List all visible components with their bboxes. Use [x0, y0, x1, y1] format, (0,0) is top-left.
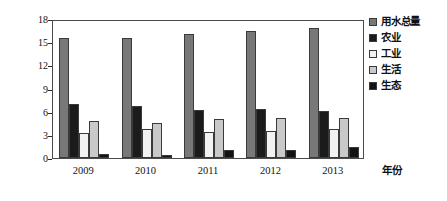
x-axis-tick-labels: 20092010201120122013 [52, 164, 364, 178]
bar-2009-series-4 [99, 154, 109, 158]
bar-2013-series-2 [329, 129, 339, 158]
legend-label: 农业 [381, 32, 401, 44]
bar-2010-series-4 [162, 155, 172, 158]
bar-2013-series-1 [319, 111, 329, 158]
bar-2012-series-3 [276, 118, 286, 158]
bar-2009-series-2 [79, 133, 89, 158]
bar-2010-series-3 [152, 123, 162, 158]
x-tick-label-2011: 2011 [198, 164, 219, 177]
bar-2009-series-1 [69, 104, 79, 158]
bar-group-2011 [178, 21, 240, 158]
y-tick-label: 18 [28, 15, 48, 25]
legend-item-1: 农业 [369, 31, 445, 46]
bar-group-2013 [303, 21, 365, 158]
x-tick-label-2013: 2013 [322, 164, 343, 177]
bar-2010-series-0 [122, 38, 132, 158]
y-tick-label: 9 [28, 85, 48, 95]
y-tick-label: 6 [28, 108, 48, 118]
x-tick-label-2012: 2012 [260, 164, 281, 177]
legend-item-2: 工业 [369, 47, 445, 62]
legend-item-3: 生活 [369, 63, 445, 78]
bar-group-2009 [53, 21, 115, 158]
y-tick-label: 0 [28, 154, 48, 164]
legend-label: 生态 [381, 80, 401, 92]
bar-2013-series-3 [339, 118, 349, 158]
bar-2009-series-3 [89, 121, 99, 158]
bar-2013-series-0 [309, 28, 319, 159]
y-tick-label: 15 [28, 38, 48, 48]
plot-inner [53, 21, 363, 158]
x-tick-label-2010: 2010 [135, 164, 156, 177]
legend-label: 用水总量 [381, 16, 420, 28]
x-tick-label-2009: 2009 [73, 164, 94, 177]
legend-label: 工业 [381, 48, 401, 60]
bar-2012-series-0 [246, 31, 256, 158]
legend: 用水总量农业工业生活生态 [369, 15, 445, 95]
x-axis-title: 年份 [382, 164, 402, 177]
plot-area [52, 20, 364, 159]
legend-label: 生活 [381, 64, 401, 76]
y-tick-mark [48, 159, 52, 160]
y-tick-label: 3 [28, 131, 48, 141]
bar-2011-series-4 [224, 150, 234, 158]
bar-2012-series-1 [256, 109, 266, 158]
bar-2013-series-4 [349, 147, 359, 158]
legend-swatch-icon [369, 82, 377, 90]
bar-group-2012 [240, 21, 302, 158]
y-axis-tick-labels: 0369121518 [28, 14, 48, 159]
water-resources-bar-chart: 水资源量（亿立方米） 0369121518 200920102011201220… [0, 0, 447, 201]
legend-swatch-icon [369, 66, 377, 74]
y-tick-label: 12 [28, 61, 48, 71]
bar-2011-series-2 [204, 132, 214, 158]
legend-swatch-icon [369, 50, 377, 58]
legend-item-0: 用水总量 [369, 15, 445, 30]
bar-2012-series-2 [266, 131, 276, 158]
bar-2009-series-0 [59, 38, 69, 158]
bar-2011-series-1 [194, 110, 204, 158]
legend-swatch-icon [369, 34, 377, 42]
bar-2012-series-4 [286, 150, 296, 158]
bar-2011-series-3 [214, 119, 224, 158]
bar-2010-series-2 [142, 129, 152, 158]
bar-2010-series-1 [132, 106, 142, 159]
legend-item-4: 生态 [369, 79, 445, 94]
bar-group-2010 [115, 21, 177, 158]
bar-2011-series-0 [184, 34, 194, 158]
legend-swatch-icon [369, 18, 377, 26]
